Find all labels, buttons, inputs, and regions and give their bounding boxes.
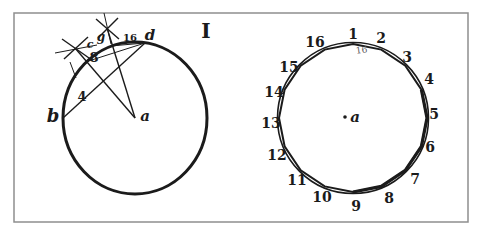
vertex-label-10: 10 (312, 189, 332, 205)
right-center-dot (343, 115, 347, 119)
vertex-label-2: 2 (376, 30, 386, 46)
square-side-label: 4 (77, 89, 86, 104)
vertex-label-12: 12 (267, 147, 286, 163)
vertex-label-7: 7 (410, 171, 420, 187)
figure-numeral: I (201, 19, 210, 43)
vertex-label-11: 11 (287, 172, 306, 188)
vertex-label-1: 1 (348, 26, 358, 42)
vertex-label-8: 8 (384, 190, 394, 206)
figure-plate: b 4 c 8 g 16 d a I a 16 1 (0, 0, 492, 235)
vertex-label-16: 16 (305, 34, 324, 50)
plate-border (14, 13, 468, 222)
left-center-label-a: a (140, 107, 150, 125)
point-label-d: d (145, 26, 156, 44)
engraving-plate: b 4 c 8 g 16 d a I a 16 1 (0, 0, 492, 235)
vertex-label-5: 5 (429, 106, 439, 122)
vertex-label-4: 4 (424, 71, 434, 87)
vertex-label-3: 3 (402, 49, 412, 65)
side-16-inner-label: 16 (355, 44, 368, 56)
point-label-g: g (97, 30, 105, 44)
vertex-label-15: 15 (279, 59, 298, 75)
octagon-side-label: 8 (89, 50, 98, 65)
vertex-label-13: 13 (261, 115, 280, 131)
hexadecagon-side-label: 16 (123, 32, 137, 43)
vertex-label-9: 9 (351, 198, 361, 214)
vertex-label-6: 6 (425, 139, 435, 155)
point-label-b: b (47, 105, 60, 126)
vertex-label-14: 14 (264, 84, 284, 100)
right-center-label-a: a (350, 108, 360, 126)
